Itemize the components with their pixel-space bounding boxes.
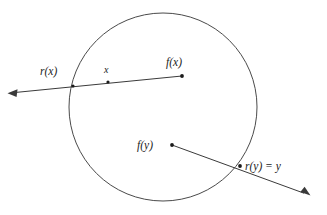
- ray-x-line: [14, 76, 182, 93]
- retraction-diagram: r(x) x f(x) f(y) r(y) = y: [0, 0, 327, 215]
- disc-boundary-circle: [69, 13, 257, 201]
- ray-x-group: [8, 76, 183, 97]
- label-fy: f(y): [137, 139, 153, 152]
- label-x: x: [103, 64, 109, 75]
- ray-y-arrowhead: [300, 187, 310, 196]
- label-rx: r(x): [40, 65, 57, 78]
- point-dot-ry: [238, 164, 242, 168]
- label-ry-equals-y: r(y) = y: [245, 160, 282, 173]
- point-dot-fx: [180, 74, 184, 78]
- ray-y-group: [172, 145, 311, 196]
- figure-root: r(x) x f(x) f(y) r(y) = y: [0, 0, 327, 215]
- ray-y-line: [172, 145, 304, 193]
- label-fx: f(x): [166, 56, 182, 69]
- point-dot-x: [106, 80, 109, 83]
- point-dot-fy: [170, 143, 174, 147]
- point-dot-rx: [71, 84, 74, 87]
- ray-x-arrowhead: [8, 89, 18, 97]
